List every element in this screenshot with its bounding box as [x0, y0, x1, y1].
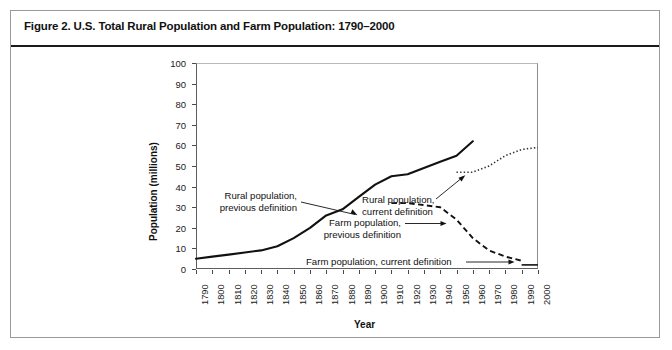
figure-title-bar: Figure 2. U.S. Total Rural Population an…	[11, 11, 659, 47]
series-layer	[11, 47, 660, 338]
figure-title: Figure 2. U.S. Total Rural Population an…	[24, 20, 394, 32]
plot-wrapper: Population (millions) 0 10 20 30 40 50 6…	[11, 47, 659, 338]
annotation-line: Rural population,	[193, 190, 297, 202]
annotation-line: Rural population,	[362, 194, 435, 206]
annotation-line: previous definition	[193, 202, 297, 214]
annotation-farm-previous: Farm population, previous definition	[297, 217, 401, 240]
annotation-line: Farm population,	[297, 217, 401, 229]
annotation-line: previous definition	[297, 229, 401, 241]
leader-rural-current	[436, 175, 465, 199]
annotation-line: current definition	[362, 206, 435, 218]
leader-farm-current	[466, 259, 515, 264]
annotation-line: Farm population, current definition	[306, 256, 452, 268]
annotation-rural-previous: Rural population, previous definition	[193, 190, 297, 213]
annotation-rural-current: Rural population, current definition	[362, 194, 435, 217]
annotation-farm-current: Farm population, current definition	[306, 256, 452, 268]
series-rural-current	[457, 147, 538, 172]
leader-farm-previous	[405, 221, 447, 226]
figure-container: Figure 2. U.S. Total Rural Population an…	[10, 10, 660, 338]
